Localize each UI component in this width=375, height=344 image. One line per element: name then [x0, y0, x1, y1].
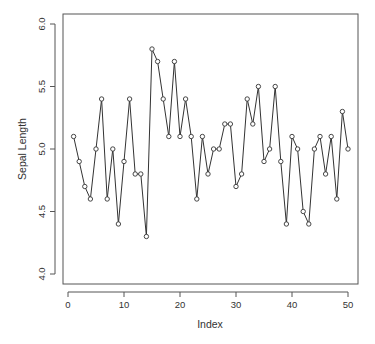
y-axis-label: Sepal Length — [16, 118, 28, 180]
data-point — [301, 209, 305, 213]
data-point — [251, 122, 255, 126]
data-point — [83, 184, 87, 188]
data-point — [167, 134, 171, 138]
data-point — [200, 134, 204, 138]
x-axis: 01020304050 — [65, 292, 353, 310]
data-point — [256, 84, 260, 88]
x-tick-label: 0 — [65, 299, 70, 310]
data-point — [295, 147, 299, 151]
x-tick-label: 10 — [119, 299, 130, 310]
data-point — [122, 159, 126, 163]
data-point — [273, 84, 277, 88]
data-point — [133, 172, 137, 176]
data-point — [245, 97, 249, 101]
data-point — [172, 59, 176, 63]
data-point — [99, 97, 103, 101]
data-point — [318, 134, 322, 138]
x-tick-label: 50 — [343, 299, 354, 310]
data-point — [88, 197, 92, 201]
data-point — [155, 59, 159, 63]
data-point — [127, 97, 131, 101]
x-axis-label: Index — [197, 318, 223, 330]
data-line — [74, 49, 348, 237]
data-point — [178, 134, 182, 138]
data-point — [150, 47, 154, 51]
data-point — [290, 134, 294, 138]
data-point — [284, 222, 288, 226]
data-point — [71, 134, 75, 138]
data-point — [77, 159, 81, 163]
data-point — [262, 159, 266, 163]
data-point — [307, 222, 311, 226]
y-tick-label: 4.0 — [36, 267, 47, 280]
data-point — [335, 197, 339, 201]
data-point — [211, 147, 215, 151]
data-point — [144, 234, 148, 238]
data-point — [329, 134, 333, 138]
data-points — [71, 47, 350, 239]
data-point — [116, 222, 120, 226]
data-point — [217, 147, 221, 151]
data-point — [228, 122, 232, 126]
data-point — [111, 147, 115, 151]
data-point — [195, 197, 199, 201]
data-point — [105, 197, 109, 201]
data-point — [346, 147, 350, 151]
y-tick-label: 5.5 — [36, 80, 47, 93]
data-point — [340, 109, 344, 113]
x-tick-label: 20 — [175, 299, 186, 310]
data-point — [267, 147, 271, 151]
data-point — [239, 172, 243, 176]
x-tick-label: 40 — [287, 299, 298, 310]
data-point — [234, 184, 238, 188]
data-point — [94, 147, 98, 151]
y-tick-label: 5.0 — [36, 142, 47, 155]
data-point — [223, 122, 227, 126]
y-tick-label: 4.5 — [36, 205, 47, 218]
y-axis: 4.04.55.05.56.0 — [36, 17, 55, 280]
data-point — [323, 172, 327, 176]
line-chart: 4.04.55.05.56.0 01020304050 Index Sepal … — [0, 0, 375, 344]
data-point — [206, 172, 210, 176]
y-tick-label: 6.0 — [36, 17, 47, 30]
x-tick-label: 30 — [231, 299, 242, 310]
data-point — [189, 134, 193, 138]
data-point — [161, 97, 165, 101]
data-point — [312, 147, 316, 151]
data-point — [279, 159, 283, 163]
data-point — [183, 97, 187, 101]
data-point — [139, 172, 143, 176]
